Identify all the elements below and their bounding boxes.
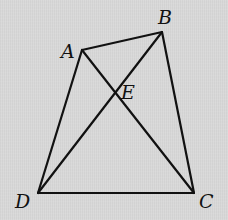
- diagram-canvas: A B E D C: [0, 0, 228, 220]
- segment-BC: [162, 32, 194, 193]
- label-D: D: [14, 190, 30, 212]
- quadrilateral-diagram: A B E D C: [0, 0, 228, 220]
- label-B: B: [157, 6, 172, 28]
- diagonal-AC: [82, 50, 194, 193]
- label-A: A: [59, 40, 75, 62]
- label-C: C: [199, 190, 214, 212]
- diagonal-BD: [38, 32, 162, 193]
- segment-DA: [38, 50, 82, 193]
- label-E: E: [120, 81, 135, 103]
